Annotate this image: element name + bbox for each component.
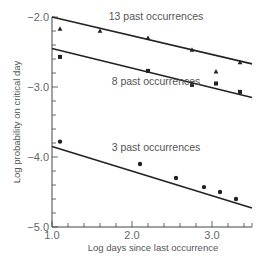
fit-line [52, 17, 252, 64]
triangle-marker [58, 26, 63, 30]
fit-line [52, 49, 252, 98]
circle-marker [138, 162, 142, 166]
circle-marker [58, 139, 62, 143]
square-marker [146, 69, 150, 73]
fit-lines [52, 17, 252, 208]
fit-line [52, 147, 252, 209]
data-markers [58, 26, 243, 201]
triangle-marker [146, 35, 151, 39]
y-axis-label: Log probability on critical day [11, 60, 22, 183]
series-label: 8 past occurrences [112, 75, 201, 87]
triangle-marker [214, 69, 219, 73]
series-labels: 13 past occurrences8 past occurrences3 p… [109, 10, 204, 154]
square-marker [58, 55, 62, 59]
y-tick-label: −3.0 [27, 81, 49, 93]
x-tick-label: 3.0 [204, 229, 219, 241]
x-tick-label: 2.0 [124, 229, 139, 241]
y-tick-label: −4.0 [27, 151, 49, 163]
x-tick-label: 1.0 [44, 229, 59, 241]
axes: −2.0−3.0−4.0−5.01.02.03.0 [27, 11, 252, 241]
circle-marker [218, 190, 222, 194]
square-marker [238, 90, 242, 94]
circle-marker [234, 197, 238, 201]
circle-marker [202, 185, 206, 189]
series-label: 3 past occurrences [112, 141, 201, 153]
series-label: 13 past occurrences [109, 10, 204, 22]
x-axis-label: Log days since last occurrence [88, 242, 218, 253]
square-marker [214, 82, 218, 86]
y-tick-label: −2.0 [27, 11, 49, 23]
chart: −2.0−3.0−4.0−5.01.02.03.0 13 past occurr… [0, 0, 263, 261]
circle-marker [174, 176, 178, 180]
